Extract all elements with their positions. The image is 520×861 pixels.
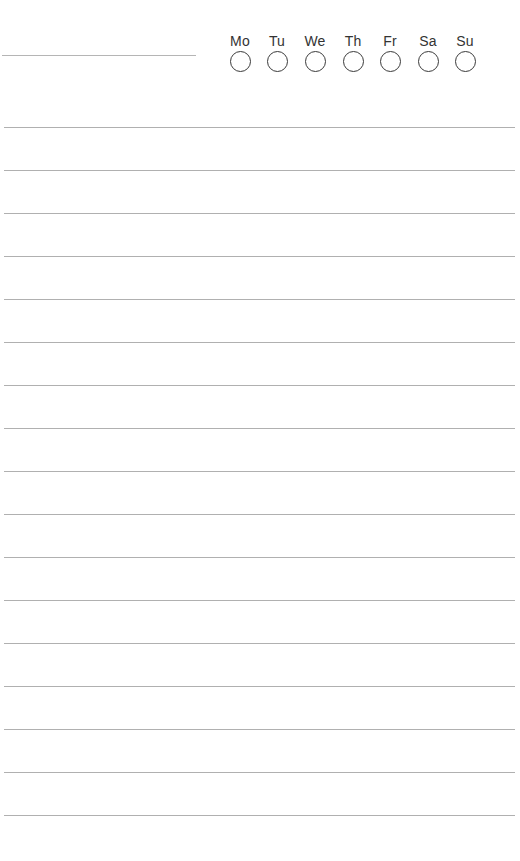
ruled-line	[4, 600, 515, 601]
day-checkbox-circle-icon[interactable]	[455, 51, 476, 72]
day-wednesday[interactable]: We	[300, 32, 330, 72]
ruled-line	[4, 557, 515, 558]
ruled-line	[4, 256, 515, 257]
ruled-line	[4, 385, 515, 386]
title-write-line[interactable]	[2, 55, 196, 56]
day-checkbox-circle-icon[interactable]	[305, 51, 326, 72]
day-label: Su	[450, 32, 480, 50]
ruled-line	[4, 686, 515, 687]
day-checkbox-circle-icon[interactable]	[267, 51, 288, 72]
day-label: Th	[338, 32, 368, 50]
day-label: Sa	[413, 32, 443, 50]
day-checkbox-circle-icon[interactable]	[418, 51, 439, 72]
day-label: We	[300, 32, 330, 50]
ruled-line	[4, 428, 515, 429]
weekday-tracker: Mo Tu We Th Fr Sa Su	[225, 32, 485, 72]
ruled-line	[4, 299, 515, 300]
day-label: Fr	[375, 32, 405, 50]
ruled-line	[4, 127, 515, 128]
ruled-line	[4, 643, 515, 644]
day-label: Mo	[225, 32, 255, 50]
ruled-line	[4, 514, 515, 515]
day-label: Tu	[262, 32, 292, 50]
day-friday[interactable]: Fr	[375, 32, 405, 72]
ruled-line	[4, 729, 515, 730]
ruled-line	[4, 471, 515, 472]
day-saturday[interactable]: Sa	[413, 32, 443, 72]
day-checkbox-circle-icon[interactable]	[380, 51, 401, 72]
ruled-line	[4, 815, 515, 816]
day-monday[interactable]: Mo	[225, 32, 255, 72]
ruled-line	[4, 342, 515, 343]
ruled-line	[4, 170, 515, 171]
day-checkbox-circle-icon[interactable]	[230, 51, 251, 72]
day-tuesday[interactable]: Tu	[262, 32, 292, 72]
ruled-line	[4, 772, 515, 773]
day-sunday[interactable]: Su	[450, 32, 480, 72]
ruled-line	[4, 213, 515, 214]
day-thursday[interactable]: Th	[338, 32, 368, 72]
day-checkbox-circle-icon[interactable]	[343, 51, 364, 72]
